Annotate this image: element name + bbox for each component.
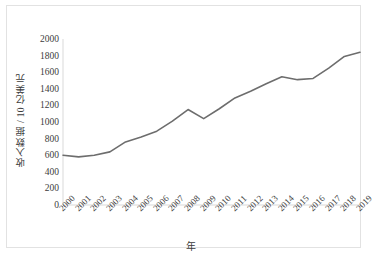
x-axis-tick-labels: 2000200120022003200420052006200720082009… — [63, 206, 363, 240]
plot-area — [63, 39, 360, 205]
y-tick-label: 1600 — [29, 67, 59, 77]
y-tick-label: 2000 — [29, 34, 59, 44]
y-tick-label: 800 — [29, 134, 59, 144]
y-tick-label: 1200 — [29, 100, 59, 110]
y-axis-title-text: 收入数据 / 10 亿美元 — [14, 73, 28, 167]
y-axis-tick-labels: 2000180016001400120010008006004002000 — [29, 39, 59, 206]
line-chart-svg — [63, 39, 360, 205]
y-axis-title: 收入数据 / 10 亿美元 — [13, 50, 29, 190]
revenue-series-line — [63, 52, 360, 157]
y-tick-label: 0 — [29, 200, 59, 210]
x-axis-title: 年 — [7, 238, 375, 253]
y-tick-label: 400 — [29, 167, 59, 177]
y-tick-label: 1400 — [29, 84, 59, 94]
x-axis-title-text: 年 — [186, 241, 196, 252]
chart-frame: 收入数据 / 10 亿美元 20001800160014001200100080… — [6, 5, 361, 248]
y-tick-label: 200 — [29, 183, 59, 193]
y-tick-label: 1000 — [29, 117, 59, 127]
y-tick-label: 600 — [29, 150, 59, 160]
y-tick-label: 1800 — [29, 51, 59, 61]
